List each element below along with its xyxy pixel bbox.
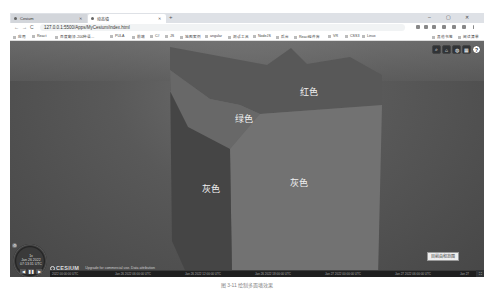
animation-buttons: ◀ ❚❚ ▶: [20, 269, 42, 274]
animation-datetime: 1x Jan 26 2022 07:13:31 UTC: [19, 254, 43, 266]
address-bar-row: ← → C 127.0.0.1:5500/Apps/MyCesium/index…: [10, 23, 484, 32]
gear-icon[interactable]: ⚙: [12, 243, 17, 248]
bookmark-item[interactable]: angular: [205, 34, 222, 38]
timeline-tick: Jan 27 2022 00:00:00 UTC: [325, 272, 361, 276]
extension-icon[interactable]: [442, 25, 446, 29]
scene-mode-icon[interactable]: ◍: [452, 45, 461, 54]
bookmark-item[interactable]: VR: [328, 34, 338, 38]
tab-label: 动态墙: [97, 16, 109, 22]
timeline-tick: 2022 00:00:00 UTC: [52, 272, 78, 276]
timeline-tick: Jan 26 2022 06:00:00 UTC: [115, 272, 151, 276]
wall-label-red: 红色: [300, 85, 318, 98]
animation-widget[interactable]: ⚙ 1x Jan 26 2022 07:13:31 UTC ◀ ❚❚ ▶: [11, 242, 49, 277]
menu-kebab-icon[interactable]: [473, 25, 474, 29]
bookmark-item[interactable]: 地图案例: [180, 34, 201, 39]
close-window-button[interactable]: ✕: [465, 14, 469, 20]
browser-window: Cesium ✕ 动态墙 ✕ + – ▢ ✕ ← → C 127.0.0.1:5…: [10, 13, 484, 277]
bookmark-item[interactable]: Linux: [362, 34, 376, 38]
animation-time: 07:13:31 UTC: [19, 262, 43, 266]
timeline-tick: Jan 27 2022 06:00:00 UTC: [395, 272, 431, 276]
minimize-button[interactable]: –: [428, 14, 431, 20]
wall-front-face: [230, 105, 382, 277]
bookmark-item[interactable]: CSS3: [345, 34, 359, 38]
layers-icon[interactable]: ▦: [462, 45, 471, 54]
bookmark-item[interactable]: React: [32, 34, 46, 38]
play-button[interactable]: ▶: [36, 269, 42, 274]
figure-caption: 图 3-11 绘制多面墙效果: [0, 281, 494, 288]
wall-label-green: 绿色: [235, 112, 253, 125]
extension-icon[interactable]: [424, 25, 428, 29]
bookmark-item[interactable]: 前端: [132, 34, 145, 39]
wall-label-gray-front: 灰色: [290, 176, 308, 189]
pause-button[interactable]: ❚❚: [28, 269, 34, 274]
timeline-tick: Jan 26 2022 12:00:00 UTC: [185, 272, 221, 276]
tab-label: Cesium: [20, 16, 34, 21]
bookmark-item[interactable]: React组件库: [294, 34, 320, 39]
bookmark-item[interactable]: 百度翻译-200种语...: [55, 34, 94, 39]
cesium-favicon-icon: [14, 17, 17, 20]
bookmark-item[interactable]: 测试工具: [228, 34, 249, 39]
dynamic-wall-geometry: [10, 41, 484, 277]
bookmark-item[interactable]: C#: [150, 34, 160, 38]
bookmark-item-other[interactable]: 其他书签: [432, 34, 453, 39]
help-icon[interactable]: ?: [472, 45, 481, 54]
extension-icon[interactable]: [452, 25, 456, 29]
play-reverse-button[interactable]: ◀: [20, 269, 26, 274]
bookmark-item[interactable]: 应用: [13, 34, 26, 39]
reload-button[interactable]: C: [30, 24, 34, 30]
bookmark-item-reading-list[interactable]: 阅读清单: [458, 34, 479, 39]
bookmark-item[interactable]: JS: [165, 34, 174, 38]
globe-favicon-icon: [91, 17, 94, 20]
bookmark-item[interactable]: 后台: [276, 34, 289, 39]
fullscreen-icon[interactable]: ⛶: [476, 270, 484, 277]
timeline-tick: Jan 27: [460, 272, 469, 276]
tab-cesium[interactable]: Cesium ✕: [11, 14, 87, 23]
extension-icon[interactable]: [416, 25, 420, 29]
new-tab-button[interactable]: +: [169, 14, 173, 20]
cesium-viewer[interactable]: 红色 绿色 灰色 灰色 ⌕ ⌂ ◍ ▦ ? 目前由和范围 ⚙ 1x Jan 26…: [10, 41, 484, 277]
restore-button[interactable]: ▢: [446, 14, 451, 20]
bookmark-item[interactable]: PULA: [110, 34, 124, 38]
profile-avatar-icon[interactable]: [462, 25, 466, 29]
search-icon[interactable]: ⌕: [432, 45, 441, 54]
tab-strip: Cesium ✕ 动态墙 ✕ + – ▢ ✕: [10, 13, 484, 23]
forward-button[interactable]: →: [22, 24, 27, 30]
timeline[interactable]: 2022 00:00:00 UTC Jan 26 2022 06:00:00 U…: [50, 270, 476, 277]
timeline-tick: Jan 26 2022 18:00:00 UTC: [255, 272, 291, 276]
url-text: 127.0.0.1:5500/Apps/MyCesium/index.html: [44, 25, 130, 30]
bookmarks-bar: 应用 React 百度翻译-200种语... PULA 前端 C# JS 地图案…: [10, 32, 484, 41]
cesium-toolbar: ⌕ ⌂ ◍ ▦ ?: [432, 45, 481, 54]
tab-close-icon[interactable]: ✕: [79, 16, 82, 21]
bookmark-item[interactable]: NodeJS: [253, 34, 271, 38]
home-icon[interactable]: ⌂: [442, 45, 451, 54]
star-icon[interactable]: [432, 25, 436, 29]
tab-dynamic-wall[interactable]: 动态墙 ✕: [88, 14, 166, 23]
range-button[interactable]: 目前由和范围: [427, 252, 459, 261]
back-button[interactable]: ←: [14, 24, 19, 30]
tab-close-icon[interactable]: ✕: [158, 16, 161, 21]
wall-label-gray-left: 灰色: [202, 182, 220, 195]
